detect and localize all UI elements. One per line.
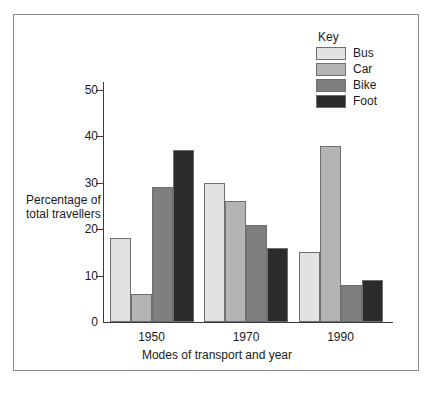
legend-entry: Bike: [316, 78, 412, 93]
y-tick-label: 40: [85, 128, 98, 144]
legend-entries: BusCarBikeFoot: [316, 46, 412, 109]
y-axis-title: Percentage oftotal travellers: [26, 193, 101, 221]
bar: [246, 225, 267, 322]
y-tick-label: 20: [85, 221, 98, 237]
x-axis-group-label: 1990: [311, 330, 371, 344]
bar: [320, 146, 341, 322]
y-tick-label: 50: [85, 82, 98, 98]
bar: [362, 280, 383, 322]
bar: [225, 201, 246, 322]
legend-label: Bus: [353, 47, 374, 60]
y-tick-label: 30: [85, 175, 98, 191]
y-tick-label: 10: [85, 268, 98, 284]
y-tick-label: 0: [91, 314, 98, 330]
legend-entry: Bus: [316, 46, 412, 61]
bar: [204, 183, 225, 322]
bar: [299, 252, 320, 322]
x-axis-title: Modes of transport and year: [0, 348, 434, 362]
legend-label: Bike: [353, 79, 376, 92]
bar: [267, 248, 288, 322]
x-axis-group-label: 1950: [122, 330, 182, 344]
bar-series-layer: [103, 82, 393, 322]
legend-swatch: [316, 63, 346, 76]
y-axis-title-line: total travellers: [26, 207, 101, 221]
bar: [131, 294, 152, 322]
legend-swatch: [316, 47, 346, 60]
bar: [341, 285, 362, 322]
legend-entry: Car: [316, 62, 412, 77]
bar: [152, 187, 173, 322]
x-axis-group-label: 1970: [216, 330, 276, 344]
legend-label: Car: [353, 63, 372, 76]
legend-swatch: [316, 79, 346, 92]
legend-entry: Foot: [316, 94, 412, 109]
bar: [173, 150, 194, 322]
x-axis-line: [103, 322, 393, 323]
chart-figure: 01020304050 Percentage oftotal traveller…: [0, 0, 434, 399]
legend-label: Foot: [353, 95, 377, 108]
chart-legend: Key BusCarBikeFoot: [316, 30, 412, 110]
legend-title: Key: [318, 30, 412, 44]
legend-swatch: [316, 95, 346, 108]
bar: [110, 238, 131, 322]
y-axis-title-line: Percentage of: [26, 193, 101, 207]
